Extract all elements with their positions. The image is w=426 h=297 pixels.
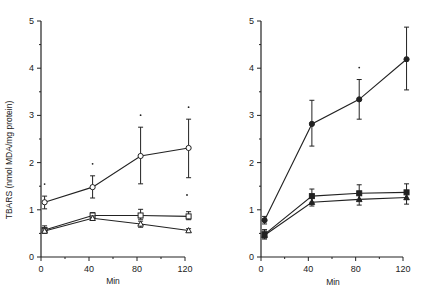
filled-circle-marker	[404, 57, 409, 62]
x-tick-label: 120	[177, 264, 192, 274]
filled-circle-marker	[262, 218, 267, 223]
x-tick-label: 40	[303, 264, 313, 274]
x-tick-label: 120	[395, 264, 410, 274]
y-tick-label: 3	[249, 110, 254, 120]
significance-mark	[186, 194, 188, 196]
filled-triangle-marker	[309, 199, 315, 204]
y-axis-label: TBARS (nmol MDA/mg protein)	[4, 101, 14, 220]
x-tick-label: 0	[258, 264, 263, 274]
filled-circle-marker	[309, 121, 314, 126]
x-tick-label: 80	[132, 264, 142, 274]
y-tick-label: 2	[249, 158, 254, 168]
series-line	[45, 218, 189, 231]
series-line	[45, 148, 189, 202]
series-open-circle	[42, 106, 191, 209]
figure: 01234504080120 01234504080120 TBARS (nmo…	[0, 0, 426, 297]
open-circle-marker	[42, 200, 47, 205]
series-line	[265, 198, 407, 236]
x-tick-label: 0	[38, 264, 43, 274]
series-filled-triangle	[262, 193, 410, 239]
x-axis-label-right: Min	[326, 277, 340, 287]
y-tick-label: 3	[29, 110, 34, 120]
x-tick-label: 40	[84, 264, 94, 274]
y-tick-label: 2	[29, 158, 34, 168]
x-tick-label: 80	[351, 264, 361, 274]
significance-mark	[358, 67, 360, 69]
y-tick-label: 5	[249, 16, 254, 26]
filled-triangle-marker	[356, 196, 362, 201]
y-tick-label: 5	[29, 16, 34, 26]
significance-mark	[92, 163, 94, 165]
open-triangle-marker	[138, 221, 144, 226]
open-square-marker	[186, 214, 191, 219]
significance-mark	[44, 183, 46, 185]
series-line	[265, 59, 407, 220]
significance-mark	[188, 106, 190, 108]
open-circle-marker	[186, 145, 191, 150]
y-tick-label: 1	[29, 205, 34, 215]
open-circle-marker	[90, 185, 95, 190]
y-tick-label: 0	[29, 252, 34, 262]
y-tick-label: 4	[249, 63, 254, 73]
significance-mark	[140, 114, 142, 116]
y-tick-label: 0	[249, 252, 254, 262]
x-axis-label-left: Min	[106, 276, 120, 286]
open-square-marker	[138, 213, 143, 218]
right-panel: 01234504080120	[249, 16, 411, 274]
open-circle-marker	[138, 153, 143, 158]
series-filled-square	[262, 184, 409, 238]
left-panel: 01234504080120	[29, 16, 193, 274]
y-tick-label: 1	[249, 205, 254, 215]
y-tick-label: 4	[29, 63, 34, 73]
filled-circle-marker	[357, 97, 362, 102]
